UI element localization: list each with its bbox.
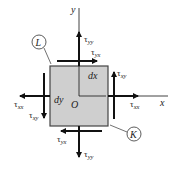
left-shear-label: τxy bbox=[29, 110, 39, 121]
y-axis-label: y bbox=[70, 4, 76, 15]
dy-label: dy bbox=[54, 94, 64, 105]
x-axis-label: x bbox=[159, 97, 165, 108]
callout-K-label: K bbox=[129, 129, 138, 140]
stress-element-diagram: y x O dx dy τyy τyx τxx τxy τxx τxy τyy … bbox=[0, 0, 176, 171]
callout-L-label: L bbox=[35, 37, 42, 48]
bottom-shear-label: τyx bbox=[57, 134, 67, 145]
bottom-normal-label: τyy bbox=[84, 149, 94, 160]
right-shear-label: τxy bbox=[117, 68, 127, 79]
dx-label: dx bbox=[88, 70, 98, 81]
right-normal-label: τxx bbox=[130, 99, 140, 110]
origin-label: O bbox=[71, 99, 78, 110]
top-shear-label: τyx bbox=[91, 47, 101, 58]
top-normal-label: τyy bbox=[84, 34, 94, 45]
left-normal-label: τxx bbox=[14, 99, 24, 110]
callout-L-leader bbox=[44, 48, 51, 64]
callout-K-leader bbox=[110, 125, 127, 132]
